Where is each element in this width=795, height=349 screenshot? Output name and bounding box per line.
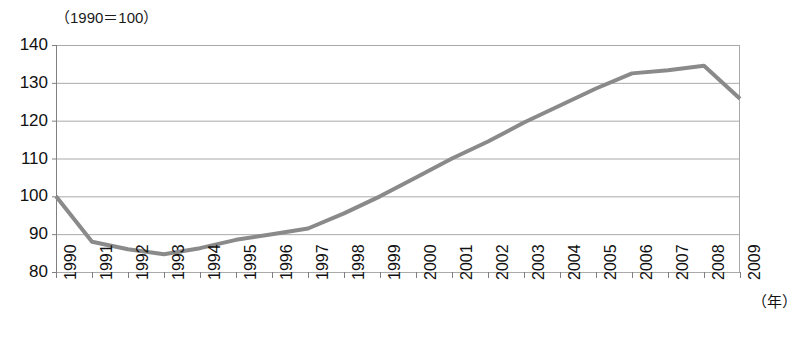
x-axis-tick-label: 2005 bbox=[603, 244, 619, 280]
x-axis-tick-label: 2001 bbox=[459, 244, 475, 280]
x-axis-tick-label: 1992 bbox=[135, 244, 151, 280]
x-axis-tick-label: 2003 bbox=[531, 244, 547, 280]
x-axis-tick-label: 1999 bbox=[387, 244, 403, 280]
x-axis-tick-label: 2006 bbox=[639, 244, 655, 280]
x-axis-unit-label: （年） bbox=[752, 290, 795, 311]
y-axis-tick-label: 110 bbox=[2, 150, 48, 167]
x-axis-tick-label: 2007 bbox=[675, 244, 691, 280]
x-axis-tick-label: 1997 bbox=[315, 244, 331, 280]
chart-canvas bbox=[56, 45, 740, 272]
chart-unit-title: （1990＝100） bbox=[55, 6, 158, 27]
x-axis-tick-label: 2002 bbox=[495, 244, 511, 280]
data-series-line bbox=[56, 66, 740, 254]
y-axis-tick-label: 90 bbox=[2, 225, 48, 242]
x-axis-tick-label: 2004 bbox=[567, 244, 583, 280]
x-axis-tick-label: 1998 bbox=[351, 244, 367, 280]
x-axis-tick-label: 2009 bbox=[747, 244, 763, 280]
y-axis-tick-label: 120 bbox=[2, 112, 48, 129]
x-axis-tick-label: 2008 bbox=[711, 244, 727, 280]
line-chart: （1990＝100） 8090100110120130140 199019911… bbox=[0, 0, 795, 349]
plot-area bbox=[56, 45, 740, 272]
y-axis-tick-label: 80 bbox=[2, 263, 48, 280]
y-axis-tick-label: 130 bbox=[2, 74, 48, 91]
x-axis-tick-label: 1993 bbox=[171, 244, 187, 280]
x-axis-tick-label: 1994 bbox=[207, 244, 223, 280]
x-axis-tick-label: 1996 bbox=[279, 244, 295, 280]
x-axis-tick-label: 1991 bbox=[99, 244, 115, 280]
x-axis-tick-label: 1990 bbox=[63, 244, 79, 280]
y-axis-tick-label: 140 bbox=[2, 36, 48, 53]
y-axis-tick-label: 100 bbox=[2, 187, 48, 204]
x-axis-tick-label: 2000 bbox=[423, 244, 439, 280]
x-axis-tick-label: 1995 bbox=[243, 244, 259, 280]
